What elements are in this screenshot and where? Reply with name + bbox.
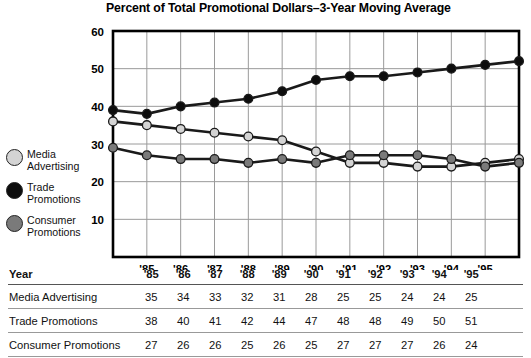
data-point-trade-promotions (142, 109, 151, 118)
table-column-header: '92 (359, 264, 391, 285)
legend-marker-trade-promotions-icon (6, 182, 23, 199)
table-column-header: '88 (231, 264, 263, 285)
table-cell: 27 (359, 333, 391, 357)
data-point-media-advertising (109, 117, 118, 126)
legend-label-line2: Advertising (27, 160, 79, 172)
y-tick-label: 60 (91, 26, 104, 38)
table-cell: 32 (231, 285, 263, 309)
table-cell: 25 (295, 333, 327, 357)
table-cell: 25 (455, 285, 487, 309)
table-cell: 26 (199, 333, 231, 357)
table-cell-spacer (487, 333, 523, 357)
table-cell: 25 (327, 285, 359, 309)
data-point-trade-promotions (345, 72, 354, 81)
table-cell: 48 (359, 309, 391, 333)
legend-marker-consumer-promotions-icon (6, 215, 23, 232)
table-cell: 24 (391, 285, 423, 309)
table-cell: 24 (423, 285, 455, 309)
table-cell: 26 (167, 333, 199, 357)
data-point-trade-promotions (278, 87, 287, 96)
table-cell: 27 (327, 333, 359, 357)
table-cell: 33 (199, 285, 231, 309)
data-point-media-advertising (244, 132, 253, 141)
data-table: Year '85'86'87'88'89'90'91'92'93'94'95 M… (8, 264, 523, 357)
table-cell: 25 (231, 333, 263, 357)
gridlines-group (113, 31, 519, 257)
legend-marker-media-advertising-icon (6, 149, 23, 166)
table-column-header: '89 (263, 264, 295, 285)
table-column-header: '90 (295, 264, 327, 285)
table-row: Trade Promotions3840414244474848495051 (8, 309, 523, 333)
data-point-consumer-promotions (210, 155, 219, 164)
data-point-consumer-promotions (142, 151, 151, 160)
table-column-header: '87 (199, 264, 231, 285)
table-cell: 50 (423, 309, 455, 333)
data-point-consumer-promotions (515, 158, 524, 167)
data-point-trade-promotions (413, 68, 422, 77)
data-point-media-advertising (142, 121, 151, 130)
table-cell: 34 (167, 285, 199, 309)
table-cell-spacer (487, 285, 523, 309)
data-point-consumer-promotions (481, 162, 490, 171)
data-point-media-advertising (278, 136, 287, 145)
data-point-consumer-promotions (244, 158, 253, 167)
data-point-consumer-promotions (379, 151, 388, 160)
table-cell: 51 (455, 309, 487, 333)
data-point-trade-promotions (447, 64, 456, 73)
data-point-trade-promotions (312, 76, 321, 85)
legend-item-media-advertising: Media Advertising (6, 148, 106, 172)
table-cell: 42 (231, 309, 263, 333)
legend-label-line1: Consumer (27, 214, 76, 226)
legend-label-media-advertising: Media Advertising (27, 148, 79, 172)
table-row-label: Trade Promotions (8, 309, 135, 333)
y-tick-label: 50 (91, 63, 104, 75)
chart-legend: Media Advertising Trade Promotions Consu… (6, 148, 106, 248)
data-point-consumer-promotions (176, 155, 185, 164)
table-row: Consumer Promotions272626252625272727262… (8, 333, 523, 357)
y-tick-label: 40 (91, 101, 104, 113)
data-point-trade-promotions (109, 106, 118, 115)
legend-item-consumer-promotions: Consumer Promotions (6, 214, 106, 238)
table-body: Media Advertising3534333231282525242425T… (8, 285, 523, 357)
data-point-trade-promotions (244, 94, 253, 103)
table-cell: 44 (263, 309, 295, 333)
table-cell: 48 (327, 309, 359, 333)
table-cell: 27 (391, 333, 423, 357)
table-column-header: '86 (167, 264, 199, 285)
table-cell: 47 (295, 309, 327, 333)
data-point-media-advertising (210, 128, 219, 137)
data-point-media-advertising (312, 147, 321, 156)
table-header-year: Year (8, 264, 135, 285)
table-row-label: Consumer Promotions (8, 333, 135, 357)
data-point-consumer-promotions (413, 151, 422, 160)
table-cell: 40 (167, 309, 199, 333)
table-cell: 31 (263, 285, 295, 309)
data-point-consumer-promotions (109, 143, 118, 152)
data-point-consumer-promotions (312, 158, 321, 167)
data-point-trade-promotions (176, 102, 185, 111)
table-cell-spacer (487, 309, 523, 333)
data-point-consumer-promotions (278, 155, 287, 164)
table-header-spacer (487, 264, 523, 285)
table-cell: 26 (263, 333, 295, 357)
data-point-trade-promotions (379, 72, 388, 81)
table-header: Year '85'86'87'88'89'90'91'92'93'94'95 (8, 264, 523, 285)
table-cell: 38 (135, 309, 167, 333)
data-point-trade-promotions (481, 61, 490, 70)
data-point-consumer-promotions (345, 151, 354, 160)
data-point-trade-promotions (515, 57, 524, 66)
table-column-header: '94 (423, 264, 455, 285)
data-point-media-advertising (176, 125, 185, 134)
table-cell: 49 (391, 309, 423, 333)
data-point-trade-promotions (210, 98, 219, 107)
table-cell: 28 (295, 285, 327, 309)
table-column-header: '93 (391, 264, 423, 285)
table-cell: 41 (199, 309, 231, 333)
table-column-header: '91 (327, 264, 359, 285)
table-cell: 24 (455, 333, 487, 357)
table-row-label: Media Advertising (8, 285, 135, 309)
table-cell: 25 (359, 285, 391, 309)
table-cell: 27 (135, 333, 167, 357)
legend-label-line2: Promotions (27, 226, 81, 238)
legend-item-trade-promotions: Trade Promotions (6, 181, 106, 205)
